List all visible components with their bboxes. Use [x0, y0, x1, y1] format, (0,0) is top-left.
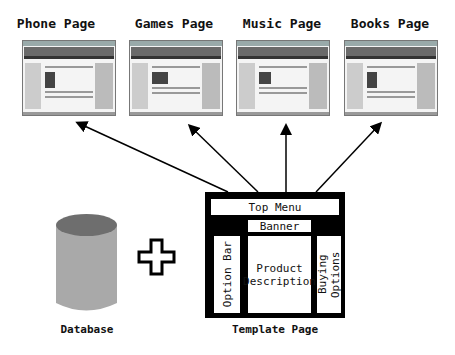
option-bar-label: Option Bar [221, 241, 234, 307]
product-description-box: Product Description [248, 236, 311, 313]
buying-options-box: Buying Options [317, 236, 341, 313]
product-description-line2: Description [243, 275, 316, 288]
template-page-frame: Top Menu Banner Option Bar Product Descr… [205, 192, 345, 318]
banner-box: Banner [248, 220, 311, 232]
product-description-line1: Product [256, 262, 302, 275]
buying-options-label: Buying Options [316, 236, 342, 313]
template-page-label: Template Page [215, 323, 335, 336]
option-bar-box: Option Bar [214, 236, 240, 313]
top-menu-box: Top Menu [211, 199, 339, 215]
banner-label: Banner [260, 220, 300, 233]
top-menu-label: Top Menu [249, 201, 302, 214]
